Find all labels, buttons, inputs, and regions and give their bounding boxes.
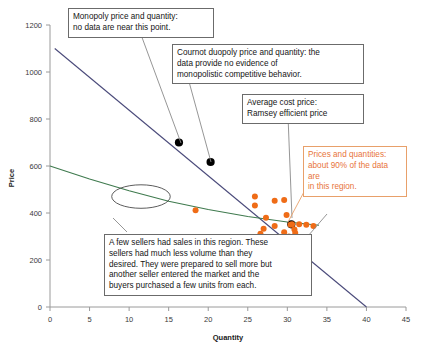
y-tick-label: 1200: [25, 21, 42, 30]
x-axis-title: Quantity: [213, 333, 244, 342]
data-point-marker: [272, 198, 278, 204]
series-observed-market-data: [193, 194, 317, 240]
x-tick-label: 45: [402, 315, 410, 324]
data-point-marker: [289, 221, 295, 227]
x-tick-label: 40: [362, 315, 370, 324]
data-point-marker: [310, 223, 316, 229]
x-axis-ticks: 051015202530354045: [48, 307, 410, 324]
series-average-cost-curve: [50, 166, 319, 225]
leader-line-cournot: [188, 78, 211, 162]
callout-cournot-duopoly: Cournot duopoly price and quantity: the …: [172, 44, 364, 84]
x-tick-label: 15: [164, 315, 172, 324]
y-tick-label: 800: [29, 115, 42, 124]
series-line: [50, 166, 319, 225]
data-point-marker: [303, 222, 309, 228]
annotation-shapes-layer: [112, 185, 171, 209]
low-volume-region-ellipse: [112, 185, 171, 209]
leader-line-few-sellers-left: [113, 218, 127, 232]
y-tick-label: 1000: [25, 68, 42, 77]
y-tick-label: 400: [29, 209, 42, 218]
x-tick-label: 0: [48, 315, 52, 324]
series-key-price-quantity-points: [175, 138, 296, 228]
y-axis-title: Price: [7, 169, 16, 187]
key-point-marker: [175, 138, 183, 146]
chart-canvas: 051015202530354045 020040060080010001200…: [0, 0, 439, 351]
data-point-marker: [193, 207, 199, 213]
x-tick-label: 30: [283, 315, 291, 324]
x-tick-label: 10: [125, 315, 133, 324]
data-point-marker: [252, 202, 258, 208]
x-tick-label: 35: [323, 315, 331, 324]
data-point-marker: [296, 221, 302, 227]
data-point-marker: [272, 223, 278, 229]
y-tick-label: 200: [29, 256, 42, 265]
data-point-marker: [263, 215, 269, 221]
callout-monopoly: Monopoly price and quantity: no data are…: [68, 8, 214, 38]
callout-data-region: Prices and quantities: about 90% of the …: [303, 146, 407, 197]
leader-line-average-cost: [288, 116, 292, 218]
y-tick-label: 0: [38, 303, 42, 312]
data-point-marker: [261, 226, 267, 232]
x-tick-label: 25: [244, 315, 252, 324]
x-tick-label: 5: [87, 315, 91, 324]
x-tick-label: 20: [204, 315, 212, 324]
data-point-marker: [281, 197, 287, 203]
data-point-marker: [252, 194, 258, 200]
y-axis-ticks: 020040060080010001200: [25, 21, 50, 312]
callout-few-sellers: A few sellers had sales in this region. …: [104, 234, 312, 296]
y-tick-label: 600: [29, 162, 42, 171]
callout-average-cost: Average cost price: Ramsey efficient pri…: [242, 94, 364, 124]
data-point-marker: [284, 212, 290, 218]
